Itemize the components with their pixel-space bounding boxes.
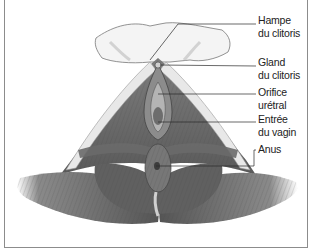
- label-line: Orifice: [258, 86, 287, 99]
- label-vaginal-opening: Entrée du vagin: [258, 113, 296, 138]
- label-urethral-orifice: Orifice urétral: [258, 86, 287, 111]
- label-line: Hampe: [258, 14, 300, 27]
- label-line: Entrée: [258, 113, 296, 126]
- label-line: urétral: [258, 99, 287, 112]
- label-anus: Anus: [258, 143, 281, 156]
- label-line: du clitoris: [258, 27, 300, 40]
- label-line: Gland: [258, 56, 300, 69]
- label-line: Anus: [258, 143, 281, 156]
- mons-pubis: [95, 23, 230, 63]
- label-clitoral-glans: Gland du clitoris: [258, 56, 300, 81]
- label-line: du vagin: [258, 126, 296, 139]
- label-clitoral-shaft: Hampe du clitoris: [258, 14, 300, 39]
- label-line: du clitoris: [258, 69, 300, 82]
